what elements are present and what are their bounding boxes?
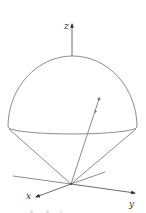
- x-axis-back: [13, 176, 71, 184]
- y-axis: [71, 184, 135, 193]
- rim-ellipse: [8, 127, 137, 134]
- point-marker: [98, 98, 101, 101]
- z-axis-label: z: [63, 21, 69, 31]
- x-axis-label: x: [26, 191, 31, 201]
- caption-fragment: [30, 210, 62, 213]
- cone-hemisphere-diagram: z x y: [0, 0, 146, 213]
- y-axis-label: y: [128, 199, 135, 209]
- cone-left-edge: [9, 129, 71, 184]
- position-vector: [71, 99, 99, 184]
- hemisphere-dome: [8, 56, 137, 127]
- x-axis: [36, 184, 71, 197]
- cone-right-edge: [71, 129, 136, 184]
- back-axis-line: [71, 172, 105, 184]
- origin-point: [70, 183, 72, 185]
